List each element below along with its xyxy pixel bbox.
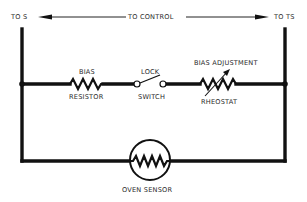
oven-sensor: OVEN SENSOR	[122, 140, 172, 194]
rheostat-label-top: BIAS ADJUSTMENT	[194, 59, 258, 67]
lock-switch: LOCK SWITCH	[134, 68, 166, 101]
bias-resistor: BIAS RESISTOR	[69, 68, 104, 101]
arrowhead-left-icon	[38, 15, 52, 20]
switch-blade-icon	[140, 75, 160, 83]
oven-sensor-label: OVEN SENSOR	[122, 186, 172, 194]
bias-resistor-label-bottom: RESISTOR	[69, 93, 104, 101]
label-to-ts: TO TS	[273, 13, 295, 21]
label-to-s: TO S	[10, 13, 27, 21]
resistor-icon	[70, 79, 103, 89]
arrowhead-right-icon	[255, 15, 269, 20]
lock-switch-label-bottom: SWITCH	[138, 93, 165, 101]
rheostat-icon	[200, 79, 236, 89]
switch-contact-left	[134, 81, 140, 87]
rheostat-label-bottom: RHEOSTAT	[201, 98, 238, 106]
arrow-left	[38, 15, 126, 20]
bias-resistor-label-top: BIAS	[79, 68, 95, 76]
circuit-diagram: TO S TO CONTROL TO TS BIAS RESISTOR LOCK…	[0, 0, 307, 202]
label-to-control: TO CONTROL	[127, 13, 174, 21]
lock-switch-label-top: LOCK	[141, 68, 160, 76]
switch-contact-right	[160, 81, 166, 87]
arrow-right	[186, 15, 269, 20]
